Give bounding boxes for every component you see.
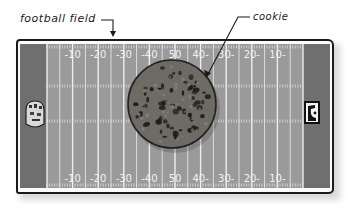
chocolate-chip bbox=[160, 129, 163, 134]
chocolate-chip bbox=[161, 101, 165, 104]
yard-number: 50 bbox=[169, 49, 182, 60]
chocolate-chip bbox=[189, 74, 194, 80]
dough-speckle bbox=[160, 142, 162, 144]
chocolate-chip bbox=[162, 136, 167, 138]
dough-speckle bbox=[176, 137, 179, 140]
chocolate-chip bbox=[173, 131, 179, 137]
dough-speckle bbox=[191, 118, 193, 120]
dough-speckle bbox=[193, 120, 196, 123]
yard-number: -20 bbox=[90, 173, 106, 184]
dough-speckle bbox=[196, 82, 198, 84]
team-logo-icon bbox=[305, 102, 319, 123]
chocolate-chip bbox=[143, 87, 148, 89]
cookie-label: cookie bbox=[253, 11, 288, 22]
chocolate-chip bbox=[159, 106, 166, 110]
dough-speckle bbox=[140, 117, 143, 120]
yard-number: -20 bbox=[90, 49, 106, 60]
dough-speckle bbox=[188, 84, 191, 87]
chocolate-chip bbox=[160, 66, 165, 69]
dough-speckle bbox=[204, 122, 208, 126]
dough-speckle bbox=[170, 104, 174, 108]
yard-number: 40- bbox=[192, 173, 209, 184]
yard-numbers-bottom: -10-20-30-405040-30-20-10- bbox=[64, 173, 286, 184]
chocolate-chip bbox=[150, 87, 154, 91]
chocolate-chip bbox=[179, 107, 182, 110]
dough-speckle bbox=[198, 108, 201, 111]
yard-number: -40 bbox=[141, 173, 157, 184]
chocolate-chip bbox=[201, 100, 204, 105]
football-field-label: football field bbox=[20, 12, 96, 25]
chocolate-chip bbox=[178, 71, 182, 75]
chocolate-chip bbox=[205, 94, 211, 99]
yard-number: 30- bbox=[218, 173, 235, 184]
chocolate-chip bbox=[202, 91, 206, 93]
chocolate-chip bbox=[166, 123, 169, 128]
dough-speckle bbox=[154, 116, 156, 118]
chocolate-chip bbox=[135, 115, 138, 119]
chocolate-chip bbox=[133, 102, 138, 106]
chocolate-chip bbox=[163, 119, 168, 123]
yard-number: -40 bbox=[141, 49, 157, 60]
chocolate-chip bbox=[161, 83, 164, 89]
chocolate-chip bbox=[200, 114, 204, 118]
dough-speckle bbox=[183, 111, 185, 113]
dough-speckle bbox=[138, 113, 140, 115]
yard-number: -10 bbox=[64, 173, 80, 184]
yard-number: -30 bbox=[116, 49, 132, 60]
dough-speckle bbox=[143, 89, 145, 91]
dough-speckle bbox=[162, 111, 165, 114]
chocolate-chip bbox=[145, 104, 147, 108]
field-label-pointer bbox=[101, 20, 116, 37]
chocolate-chip bbox=[192, 90, 198, 94]
yard-number: 10- bbox=[269, 173, 286, 184]
dough-speckle bbox=[181, 136, 183, 138]
dough-speckle bbox=[157, 89, 159, 91]
dough-speckle bbox=[191, 128, 194, 131]
chocolate-chip bbox=[183, 81, 187, 84]
dough-speckle bbox=[145, 113, 149, 117]
dough-speckle bbox=[189, 96, 192, 99]
chocolate-chip bbox=[143, 123, 146, 126]
yard-number: 40- bbox=[192, 49, 209, 60]
yard-number: 10- bbox=[269, 49, 286, 60]
chocolate-chip bbox=[188, 113, 192, 118]
dough-speckle bbox=[182, 99, 184, 101]
football-field-diagram: -10-20-30-405040-30-20-10- -10-20-30-405… bbox=[0, 0, 348, 204]
dough-speckle bbox=[174, 86, 178, 90]
yard-numbers-top: -10-20-30-405040-30-20-10- bbox=[64, 49, 286, 60]
chocolate-chip bbox=[179, 129, 183, 131]
dough-speckle bbox=[164, 115, 166, 117]
dough-speckle bbox=[142, 127, 145, 130]
dough-speckle bbox=[162, 94, 165, 97]
chocolate-chip bbox=[172, 72, 175, 75]
dough-speckle bbox=[165, 101, 168, 104]
chocolate-chip bbox=[187, 88, 190, 91]
yard-number: 50 bbox=[169, 173, 182, 184]
dough-speckle bbox=[167, 111, 169, 113]
chocolate-chip bbox=[144, 92, 147, 96]
yard-number: -30 bbox=[116, 173, 132, 184]
yard-number: -10 bbox=[64, 49, 80, 60]
dough-speckle bbox=[153, 83, 157, 87]
dough-speckle bbox=[176, 103, 178, 105]
chocolate-chip bbox=[195, 100, 201, 104]
dough-speckle bbox=[170, 65, 173, 68]
chocolate-chip bbox=[193, 85, 196, 88]
yard-number: 20- bbox=[244, 173, 261, 184]
dough-speckle bbox=[189, 105, 192, 108]
chocolate-chip bbox=[155, 119, 162, 124]
yard-number: 20- bbox=[244, 49, 261, 60]
chocolate-chip bbox=[170, 126, 175, 129]
chocolate-chip bbox=[146, 97, 149, 103]
dough-speckle bbox=[182, 78, 185, 81]
team-crest-icon bbox=[26, 101, 44, 127]
dough-speckle bbox=[169, 76, 171, 78]
chocolate-chip bbox=[170, 88, 174, 93]
dough-speckle bbox=[141, 103, 144, 106]
chocolate-chip bbox=[182, 90, 184, 95]
dough-speckle bbox=[174, 83, 177, 86]
